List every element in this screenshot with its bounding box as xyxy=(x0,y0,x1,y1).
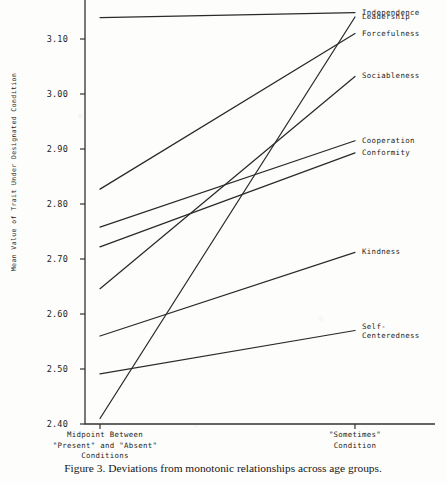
y-tick-3-00: 3.00 xyxy=(47,89,68,99)
series-label-kindness: Kindness xyxy=(362,248,400,258)
plot-area xyxy=(0,0,446,455)
series-label-sociableness: Sociableness xyxy=(362,72,420,82)
x-tick-label-right: "Sometimes" Condition xyxy=(290,430,420,451)
series-line-forcefulness xyxy=(100,34,355,190)
y-tick-2-40: 2.40 xyxy=(47,419,68,429)
series-label-conformity: Conformity xyxy=(362,148,410,158)
series-line-kindness xyxy=(100,252,355,336)
y-tick-2-90: 2.90 xyxy=(47,144,68,154)
series-label-self-centeredness: Self- Centeredness xyxy=(362,321,420,340)
series-line-independence xyxy=(100,13,355,18)
y-tick-3-10: 3.10 xyxy=(47,34,68,44)
figure-caption: Figure 3. Deviations from monotonic rela… xyxy=(0,462,446,474)
series-line-cooperation xyxy=(100,141,355,227)
x-tick-label-left: Midpoint Between "Present" and "Absent" … xyxy=(30,430,180,462)
y-tick-2-70: 2.70 xyxy=(47,254,68,264)
series-label-forcefulness: Forcefulness xyxy=(362,29,420,39)
series-line-sociableness xyxy=(100,76,355,288)
series-line-leadership xyxy=(100,17,355,419)
series-label-leadership: Leadership xyxy=(362,12,410,22)
y-tick-2-80: 2.80 xyxy=(47,199,68,209)
y-tick-2-50: 2.50 xyxy=(47,364,68,374)
figure-3-chart: Mean Value of Trait Under Designated Con… xyxy=(0,0,446,483)
series-line-conformity xyxy=(100,153,355,247)
series-label-cooperation: Cooperation xyxy=(362,136,415,146)
y-tick-2-60: 2.60 xyxy=(47,309,68,319)
series-line-self-centeredness xyxy=(100,331,355,374)
